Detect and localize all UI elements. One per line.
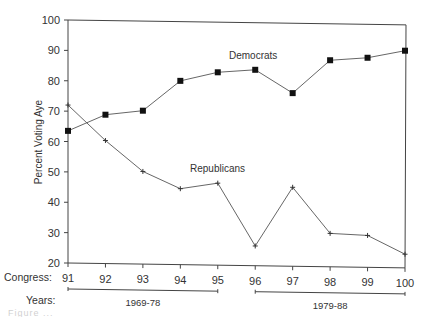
x-tick-label: 92 [99,273,111,285]
y-tick-label: 80 [48,75,60,87]
data-point-democrats [215,69,221,75]
frame-right-line [405,25,406,268]
series-line-republicans [68,105,405,254]
line-chart: 2030405060708090100 91929394959697989910… [0,0,430,317]
x-tick-label: 93 [137,273,149,285]
y-tick-label: 100 [42,14,60,26]
data-point-democrats [65,128,71,134]
x-axis-label: Congress: [4,271,52,283]
series-label-republicans: Republicans [190,163,245,174]
data-point-democrats [290,90,296,96]
figure-caption-cropped: Figure ... [8,309,198,317]
y-tick-label: 60 [48,136,60,148]
data-point-republicans [215,181,220,186]
y-axis-ticks: 2030405060708090100 [42,14,68,269]
x-tick-label: 100 [396,277,414,289]
y-tick-label: 40 [48,196,60,208]
year-range-label: 1969-78 [125,297,160,308]
y-tick-label: 20 [48,257,60,269]
data-point-republicans [403,252,408,257]
data-point-democrats [140,108,146,114]
x-axis-line [68,263,405,268]
y-tick-label: 90 [48,44,60,56]
years-row-label: Years: [26,294,55,306]
y-tick-label: 70 [48,105,60,117]
y-tick-label: 30 [48,227,60,239]
x-tick-label: 99 [361,276,373,288]
year-range-label: 1979-88 [313,300,348,311]
data-point-republicans [253,243,258,248]
data-point-democrats [252,67,258,73]
year-range: 1969-78 [68,287,218,308]
data-point-republicans [178,186,183,191]
data-point-democrats [102,112,108,118]
frame-top-line [68,20,406,25]
x-tick-label: 94 [174,274,186,286]
data-point-republicans [365,233,370,238]
year-range: 1979-88 [255,290,405,311]
data-point-democrats [365,55,371,61]
series-label-democrats: Democrats [229,50,277,61]
x-tick-label: 95 [212,274,224,286]
data-point-democrats [327,57,333,63]
y-axis-label: Percent Voting Aye [33,99,44,184]
year-range-bar [68,289,218,291]
x-tick-label: 96 [249,275,261,287]
x-tick-label: 97 [287,275,299,287]
y-tick-label: 50 [48,166,60,178]
x-tick-label: 98 [324,276,336,288]
year-ranges: 1969-781979-88 [68,287,405,311]
series-group [65,48,408,257]
series-line-democrats [68,51,405,131]
data-point-democrats [177,78,183,84]
year-range-bar [255,292,405,294]
data-point-democrats [402,48,408,54]
x-tick-label: 91 [62,272,74,284]
